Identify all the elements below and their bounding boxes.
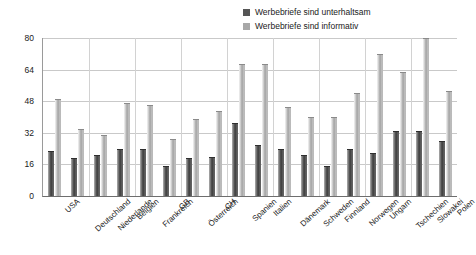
bar[interactable] — [124, 103, 130, 196]
bar[interactable] — [147, 105, 153, 196]
bar-face — [216, 111, 222, 196]
bar-face — [48, 151, 54, 196]
bar[interactable] — [439, 141, 445, 196]
bar[interactable] — [347, 149, 353, 196]
bar[interactable] — [163, 166, 169, 196]
bar[interactable] — [416, 131, 422, 196]
bar[interactable] — [101, 135, 107, 196]
bar[interactable] — [393, 131, 399, 196]
bar-cap — [370, 153, 376, 154]
bar[interactable] — [331, 117, 337, 196]
bar[interactable] — [117, 149, 123, 196]
bar-group — [232, 38, 245, 196]
bar-face — [370, 153, 376, 196]
bar[interactable] — [239, 64, 245, 196]
bar-cap — [163, 166, 169, 167]
legend-item-0: Werbebriefe sind unterhaltsam — [243, 6, 471, 18]
bar[interactable] — [78, 129, 84, 196]
bar-face — [278, 149, 284, 196]
bar-cap — [170, 139, 176, 140]
bar[interactable] — [140, 149, 146, 196]
bar-cap — [423, 38, 429, 39]
chart-legend: Werbebriefe sind unterhaltsam Werbebrief… — [243, 6, 471, 34]
y-tick-label: 0 — [29, 191, 34, 201]
bar[interactable] — [324, 166, 330, 196]
bar[interactable] — [278, 149, 284, 196]
bar-face — [416, 131, 422, 196]
bar[interactable] — [377, 54, 383, 196]
bar-cap — [308, 117, 314, 118]
bar-cap — [354, 93, 360, 94]
bar-face — [324, 166, 330, 196]
bar-cap — [446, 91, 452, 92]
bar[interactable] — [48, 151, 54, 196]
bar-face — [331, 117, 337, 196]
bar-cap — [140, 149, 146, 150]
bar-group — [186, 38, 199, 196]
bar[interactable] — [186, 158, 192, 196]
bar-face — [170, 139, 176, 196]
bar-group — [255, 38, 268, 196]
bar-cap — [193, 119, 199, 120]
bar[interactable] — [216, 111, 222, 196]
bar[interactable] — [285, 107, 291, 196]
bar[interactable] — [193, 119, 199, 196]
bar-face — [393, 131, 399, 196]
bar-group — [163, 38, 176, 196]
bar-cap — [377, 54, 383, 55]
bar[interactable] — [423, 38, 429, 196]
bar-cap — [78, 129, 84, 130]
bar-cap — [94, 155, 100, 156]
bar-face — [193, 119, 199, 196]
bar-cap — [262, 64, 268, 65]
bar-cap — [239, 64, 245, 65]
bar[interactable] — [255, 145, 261, 196]
legend-label-0: Werbebriefe sind unterhaltsam — [255, 7, 371, 17]
bar-face — [285, 107, 291, 196]
bar[interactable] — [170, 139, 176, 196]
bar-face — [400, 72, 406, 196]
bar-face — [147, 105, 153, 196]
bar-cap — [255, 145, 261, 146]
bar-group — [94, 38, 107, 196]
plot-area — [42, 38, 457, 197]
bar-group — [439, 38, 452, 196]
bar-face — [117, 149, 123, 196]
bar-cap — [232, 123, 238, 124]
bar[interactable] — [354, 93, 360, 196]
y-tick-label: 64 — [25, 65, 34, 75]
bars-layer — [43, 38, 457, 196]
bar-face — [232, 123, 238, 196]
y-tick-label: 80 — [25, 33, 34, 43]
bar-face — [354, 93, 360, 196]
bar-face — [262, 64, 268, 196]
x-tick-label: USA — [63, 197, 81, 215]
bar[interactable] — [308, 117, 314, 196]
bar-cap — [324, 166, 330, 167]
bar[interactable] — [301, 155, 307, 196]
bar-group — [278, 38, 291, 196]
bar-face — [94, 155, 100, 196]
bar-cap — [416, 131, 422, 132]
bar-cap — [301, 155, 307, 156]
bar-cap — [147, 105, 153, 106]
bar[interactable] — [400, 72, 406, 196]
bar-group — [71, 38, 84, 196]
bar[interactable] — [370, 153, 376, 196]
bar-face — [377, 54, 383, 196]
bar[interactable] — [209, 157, 215, 197]
bar[interactable] — [94, 155, 100, 196]
bar-face — [239, 64, 245, 196]
bar-face — [209, 157, 215, 197]
bar-group — [324, 38, 337, 196]
bar-face — [446, 91, 452, 196]
bar[interactable] — [232, 123, 238, 196]
bar-face — [347, 149, 353, 196]
bar[interactable] — [71, 158, 77, 196]
bar-cap — [400, 72, 406, 73]
bar-face — [124, 103, 130, 196]
bar-cap — [393, 131, 399, 132]
bar[interactable] — [262, 64, 268, 196]
bar[interactable] — [446, 91, 452, 196]
bar[interactable] — [55, 99, 61, 196]
